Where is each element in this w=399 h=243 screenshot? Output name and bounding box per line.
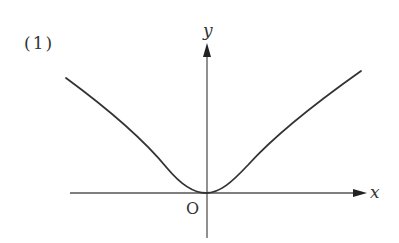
function-graph-figure: (1) y x O: [0, 0, 399, 243]
origin-label: O: [186, 199, 199, 218]
function-curve: [66, 71, 361, 193]
graph-canvas: y x O: [0, 0, 399, 243]
y-axis-label: y: [202, 20, 213, 40]
y-axis-arrow-icon: [203, 43, 211, 57]
x-axis-label: x: [370, 182, 380, 202]
x-axis-arrow-icon: [353, 189, 367, 197]
